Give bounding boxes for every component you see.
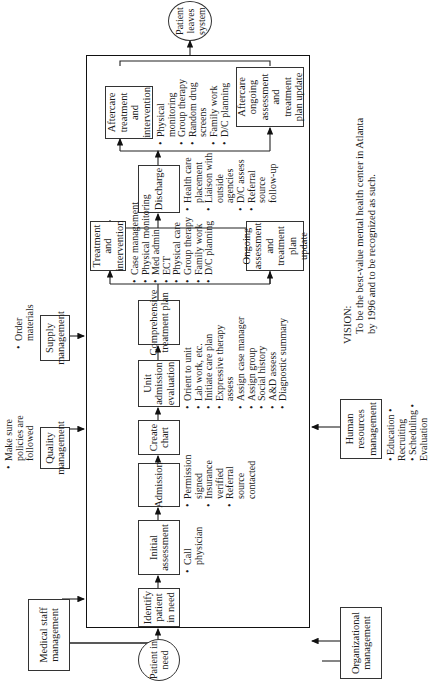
step-label: Treatment and intervention	[91, 221, 126, 272]
vision-heading: VISION:	[342, 44, 354, 344]
bullet-item: Family work	[209, 65, 220, 145]
support-label: Human resources management	[344, 401, 379, 457]
step-label: Create chart	[148, 422, 171, 453]
support-label: Medical staff management	[38, 601, 61, 669]
discharge-bullets: Health care placement Liaison with outsi…	[183, 151, 278, 211]
hr-notes-row-1: • Education • Recruiting	[385, 381, 407, 461]
step-create-chart: Create chart	[138, 420, 180, 455]
supply-management-box: Supply management	[40, 315, 70, 361]
bullet-item: Referral source contacted	[225, 449, 257, 507]
start-terminal-patient-in-need: Patient in need	[138, 639, 180, 681]
note-item: Recruiting	[396, 419, 407, 461]
bullet-item: Case management	[130, 193, 141, 283]
aftercare-ongoing-assessment-box: Aftercare ongoing assessment and treatme…	[236, 67, 304, 127]
step-label: Initial assessment	[148, 522, 171, 573]
bullet-item: D/C planning	[220, 65, 231, 145]
bullet-item: Random drug screens	[188, 65, 209, 145]
ongoing-assessment-box: Ongoing assessment and treatment plan up…	[246, 221, 304, 271]
bullet-item: Insurance verified	[204, 449, 225, 507]
support-label: Quality management	[44, 421, 67, 475]
human-resources-management-box: Human resources management	[340, 399, 382, 459]
quality-management-box: Quality management	[40, 427, 70, 469]
bullet-item: Diagnostic summary	[278, 299, 289, 409]
step-identify-patient: Identify patient in need	[138, 588, 180, 627]
step-label: Unit admission evaluation	[142, 362, 177, 406]
end-terminal-label: Patient leaves system	[174, 2, 207, 40]
step-aftercare-treatment-and-intervention: Aftercare treatment and intervention	[105, 86, 153, 139]
step-label: Aftercare treatment and intervention	[106, 87, 152, 138]
aftercare-bullets: Physical monitoring Group therapy Random…	[156, 65, 230, 145]
vision-statement: VISION: To be the best-value mental heal…	[342, 44, 378, 344]
bullet-item: D/C assess	[236, 151, 247, 211]
step-treatment-and-intervention: Treatment and intervention	[90, 221, 126, 271]
bullet-item: Liaison with outside agencies	[204, 151, 236, 211]
support-label: Supply management	[44, 311, 67, 365]
quality-management-notes: Make sure policies are followed	[4, 409, 36, 469]
initial-assessment-bullets: Call physician	[183, 518, 204, 573]
vision-line-2: by 1996 and to be recognized as such.	[366, 44, 378, 344]
note-item: Education	[385, 414, 396, 455]
hr-notes-row-2: • Scheduling • Evaluation	[407, 381, 429, 461]
ongoing-assessment-label: Ongoing assessment and treatment plan up…	[241, 223, 310, 270]
hr-notes: • Education • Recruiting • Scheduling • …	[385, 381, 429, 461]
unit-admission-bullets: Orient to unit Lab work, etc. Initiate c…	[183, 299, 289, 409]
vision-line-1: To be the best-value mental health cente…	[354, 44, 366, 344]
supply-management-notes: Order materials	[14, 299, 35, 349]
step-unit-admission-evaluation: Unit admission evaluation	[138, 360, 180, 407]
start-terminal-label: Patient in need	[148, 640, 170, 680]
end-terminal-patient-leaves-system: Patient leaves system	[168, 1, 212, 41]
support-label: Organizational management	[350, 609, 373, 677]
note-item: Order materials	[14, 299, 35, 349]
note-item: Make sure policies are followed	[4, 409, 36, 469]
bullet-item: Health care placement	[183, 151, 204, 211]
bullet-item: Physical monitoring	[156, 65, 177, 145]
aftercare-ongoing-label: Aftercare ongoing assessment and treatme…	[236, 69, 305, 125]
bullet-item: Referral source follow-up	[247, 151, 279, 211]
step-label: Identify patient in need	[142, 590, 177, 625]
step-admission: Admission	[138, 463, 180, 507]
note-item: Scheduling	[407, 410, 418, 455]
bullet-item: Assign case manager	[236, 299, 247, 409]
bullet-item: Orient to unit	[183, 299, 194, 409]
organizational-management-box: Organizational management	[340, 607, 382, 679]
step-label: Admission	[153, 462, 165, 508]
step-initial-assessment: Initial assessment	[138, 520, 180, 575]
admission-bullets: Permission signed Insurance verified Ref…	[183, 449, 257, 507]
bullet-item: Permission signed	[183, 449, 204, 507]
medical-staff-management-box: Medical staff management	[28, 599, 70, 671]
step-label: Comprehensive treatment plan	[148, 290, 171, 356]
step-comprehensive-treatment-plan: Comprehensive treatment plan	[138, 300, 180, 345]
note-item: Evaluation	[418, 418, 429, 461]
bullet-item: Call physician	[183, 518, 204, 573]
bullet-item: Expressive therapy assess	[215, 299, 236, 409]
